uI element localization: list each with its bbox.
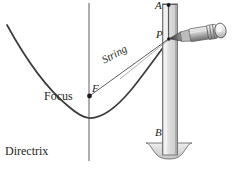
point-a-label: A: [155, 0, 162, 11]
point-a-dot: [167, 3, 171, 7]
focus-point-dot: [87, 94, 92, 99]
point-p-label: P: [156, 29, 163, 40]
directrix-label: Directrix: [5, 145, 48, 157]
focus-label: Focus: [44, 90, 73, 102]
pencil-barrel: [189, 26, 210, 42]
parabola-figure: Focus Directrix F P A B String: [0, 0, 234, 174]
string-line-focus-to-p: [90, 39, 169, 96]
point-b-label: B: [155, 127, 162, 138]
point-f-label: F: [92, 83, 99, 94]
parabola-curve: [7, 25, 170, 118]
